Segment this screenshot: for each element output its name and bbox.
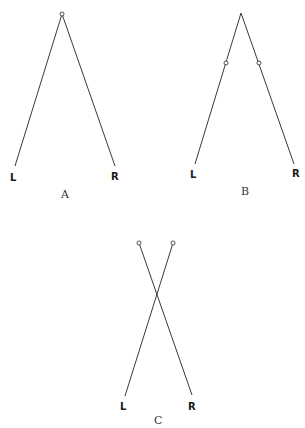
figure-c-right-pivot-icon (171, 241, 175, 245)
figure-a-right-label: R (111, 171, 119, 182)
figure-a-left-line (15, 14, 62, 166)
figure-a-apex-pivot-icon (60, 12, 64, 16)
figure-c-caption: C (154, 414, 162, 427)
figure-b-left-line (195, 13, 241, 164)
figure-b-left-label: L (190, 169, 197, 180)
figure-a-caption: A (60, 188, 70, 201)
figure-b-right-label: R (292, 168, 300, 179)
figure-a-right-line (62, 14, 115, 166)
figure-c-right-label: R (188, 401, 196, 412)
figure-c-left-pivot-icon (137, 241, 141, 245)
figure-b-caption: B (241, 185, 249, 198)
figure-b-right-line (241, 13, 294, 164)
figure-c-left-label: L (120, 401, 127, 412)
figure-b-right-pivot-icon (257, 61, 261, 65)
diagram-canvas: L R A L R B L R C (0, 0, 305, 428)
figure-c: L R C (120, 241, 196, 427)
figure-b: L R B (190, 13, 300, 198)
figure-a-left-label: L (10, 172, 17, 183)
figure-a: L R A (10, 12, 119, 201)
figure-b-left-pivot-icon (224, 61, 228, 65)
